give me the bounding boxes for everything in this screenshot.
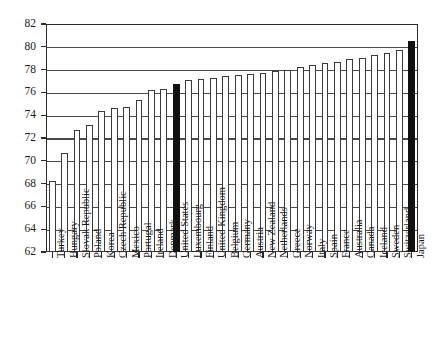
- y-tick-label-62: 62: [25, 246, 37, 258]
- x-tick-label-norway: Norway: [304, 224, 315, 258]
- bars-layer: [46, 24, 418, 252]
- x-tick-label-italy: Italy: [317, 239, 328, 258]
- x-tick-label-japan: Japan: [416, 234, 427, 258]
- x-tick-label-united-states: United States: [180, 202, 191, 258]
- x-tick-label-korea: Korea: [106, 232, 117, 258]
- x-tick-label-iceland: Iceland: [379, 227, 390, 258]
- y-tick-label-64: 64: [25, 223, 37, 235]
- x-tick-label-new-zealand: New Zealand: [267, 202, 278, 258]
- x-tick-label-hungary: Hungary: [69, 221, 80, 258]
- x-tick-label-spain: Spain: [329, 234, 340, 258]
- x-tick-label-belgium: Belgium: [230, 222, 241, 258]
- x-tick-label-france: France: [341, 229, 352, 258]
- x-tick-label-slovak-republic: Slovak Republic: [81, 188, 92, 258]
- x-tick-label-greece: Greece: [292, 228, 303, 258]
- bar-iceland: [371, 55, 378, 252]
- y-tick-label-76: 76: [25, 87, 37, 99]
- bar-sweden: [384, 53, 391, 253]
- y-tick-label-80: 80: [25, 41, 37, 53]
- y-tick-label-74: 74: [25, 109, 37, 121]
- x-tick-label-canada: Canada: [366, 227, 377, 259]
- y-tick-label-68: 68: [25, 178, 37, 190]
- bar-france: [334, 62, 341, 252]
- x-axis: TurkeyHungarySlovak RepublicPolandKoreaC…: [46, 258, 418, 346]
- x-tick-label-australia: Australia: [354, 220, 365, 259]
- x-tick-label-ireland: Ireland: [155, 228, 166, 258]
- x-tick-label-denmark: Denmark: [168, 219, 179, 258]
- y-axis: 6264666870727476788082: [0, 24, 42, 252]
- y-tick-label-72: 72: [25, 132, 37, 144]
- x-tick-label-finland: Finland: [205, 226, 216, 258]
- x-tick-label-mexico: Mexico: [131, 226, 142, 258]
- bar-spain: [322, 63, 329, 252]
- x-tick-label-poland: Poland: [93, 229, 104, 258]
- y-tick-label-66: 66: [25, 201, 37, 213]
- x-tick-label-sweden: Sweden: [391, 225, 402, 258]
- x-tick-label-luxembourg: Luxembourg: [193, 204, 204, 258]
- x-tick-label-portugal: Portugal: [143, 222, 154, 258]
- x-tick-label-netherlands: Netherlands: [279, 207, 290, 258]
- y-tick-label-82: 82: [25, 18, 37, 30]
- y-tick-label-78: 78: [25, 64, 37, 76]
- x-tick-label-germany: Germany: [242, 219, 253, 258]
- x-tick-label-turkey: Turkey: [56, 228, 67, 258]
- y-tick-label-70: 70: [25, 155, 37, 167]
- x-tick-label-austria: Austria: [255, 227, 266, 258]
- x-tick-label-czech-republic: Czech Republic: [118, 191, 129, 258]
- x-tick-label-united-kingdom: United Kingdom: [217, 187, 228, 258]
- life-expectancy-bar-chart: 6264666870727476788082 TurkeyHungarySlov…: [0, 0, 438, 346]
- x-tick-label-switzerland: Switzerland: [403, 208, 414, 258]
